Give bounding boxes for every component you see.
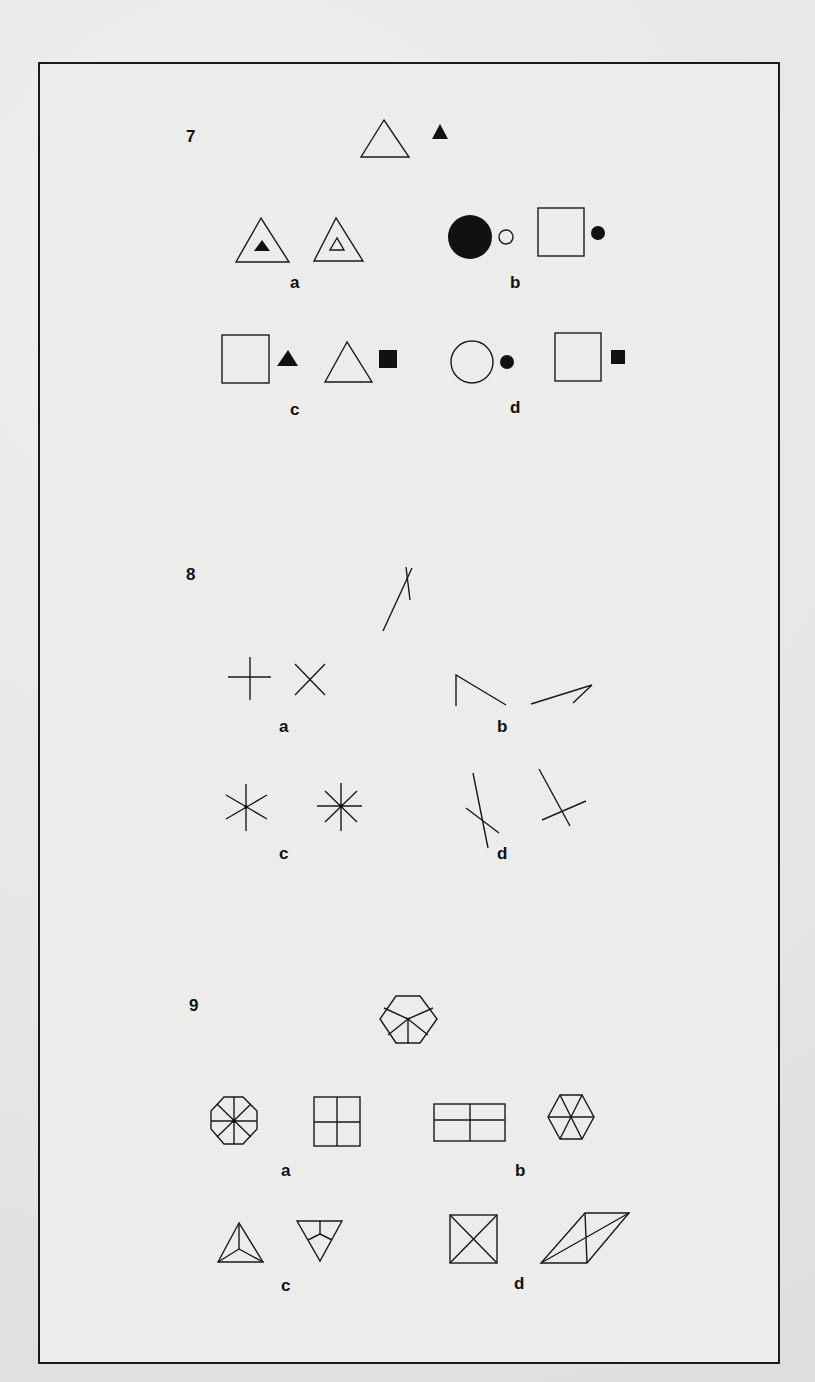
p8-option-d[interactable] bbox=[466, 769, 586, 848]
p9-option-a[interactable] bbox=[211, 1097, 360, 1146]
p8-option-a[interactable] bbox=[228, 657, 325, 700]
p8-stem-figure bbox=[383, 567, 412, 631]
p7-option-b[interactable] bbox=[448, 208, 605, 259]
p9-option-d[interactable] bbox=[450, 1213, 629, 1263]
p7-stem-figure bbox=[361, 120, 448, 157]
p7-option-a[interactable] bbox=[236, 218, 363, 262]
p8-option-c[interactable] bbox=[226, 783, 362, 831]
p9-option-c[interactable] bbox=[218, 1221, 342, 1262]
p9-stem-figure bbox=[380, 996, 437, 1043]
p8-option-b[interactable] bbox=[456, 675, 592, 706]
p7-option-d[interactable] bbox=[451, 333, 625, 383]
p7-option-c[interactable] bbox=[222, 335, 397, 383]
p9-option-b[interactable] bbox=[434, 1095, 594, 1141]
